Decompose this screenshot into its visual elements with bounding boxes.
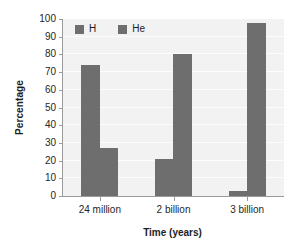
legend-swatch-he: [118, 25, 127, 34]
legend-swatch-h: [75, 25, 84, 34]
y-axis-tick-label: 50: [45, 102, 56, 113]
bar-h-1: [155, 159, 173, 196]
bar-he-2: [247, 23, 265, 196]
y-axis-tick-label: 20: [45, 155, 56, 166]
bars-layer: [63, 19, 284, 196]
y-axis-tick-label: 40: [45, 119, 56, 130]
bar-h-0: [81, 65, 99, 196]
y-axis-tick-label: 0: [50, 190, 56, 201]
bar-group: [81, 19, 118, 196]
bar-he-0: [100, 148, 118, 196]
x-axis-ticks: 24 million2 billion3 billion: [63, 196, 284, 216]
y-axis-tick-label: 10: [45, 172, 56, 183]
y-axis-tick-label: 90: [45, 31, 56, 42]
y-axis-title: Percentage: [14, 53, 25, 163]
x-axis-tick-label: 2 billion: [157, 204, 191, 215]
x-axis-tick-mark: [174, 196, 175, 201]
x-axis-tick-mark: [247, 196, 248, 201]
x-axis-title: Time (years): [62, 227, 283, 238]
legend-entry-h: H: [75, 24, 96, 34]
y-axis-tick-label: 30: [45, 137, 56, 148]
chart-legend: HHe: [75, 24, 145, 34]
bar-he-1: [173, 54, 191, 196]
y-axis-tick-label: 70: [45, 66, 56, 77]
legend-label-h: H: [89, 24, 96, 34]
y-axis-tick-label: 100: [39, 13, 56, 24]
hydrogen-helium-percentage-bar-chart: Percentage 1009080706050403020100 HHe 24…: [0, 0, 303, 251]
legend-label-he: He: [132, 24, 145, 34]
legend-entry-he: He: [118, 24, 145, 34]
y-axis-tick-label: 80: [45, 48, 56, 59]
x-axis-tick-mark: [100, 196, 101, 201]
bar-group: [229, 19, 266, 196]
bar-group: [155, 19, 192, 196]
y-axis-tick-label: 60: [45, 84, 56, 95]
plot-area: 1009080706050403020100 HHe 24 million2 b…: [62, 19, 284, 197]
x-axis-tick-label: 24 million: [79, 204, 121, 215]
x-axis-tick-label: 3 billion: [230, 204, 264, 215]
